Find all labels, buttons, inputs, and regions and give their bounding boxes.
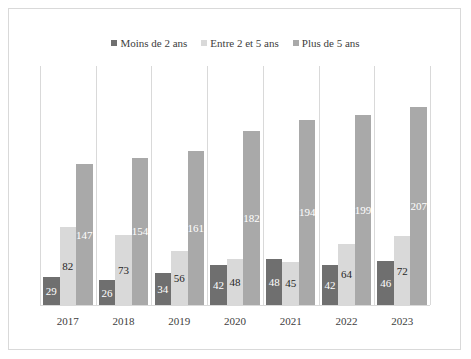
gridline xyxy=(96,66,97,305)
bar: 82 xyxy=(60,227,77,305)
x-tick-label: 2023 xyxy=(374,315,430,327)
data-label: 42 xyxy=(213,279,224,291)
legend-label: Entre 2 et 5 ans xyxy=(210,37,278,49)
bar: 182 xyxy=(243,131,260,305)
data-label: 45 xyxy=(285,277,296,289)
x-axis-line xyxy=(40,305,430,306)
bar: 29 xyxy=(43,277,60,305)
bar: 56 xyxy=(171,251,188,305)
bar: 42 xyxy=(210,265,227,305)
gridline xyxy=(374,66,375,305)
gridline xyxy=(40,66,41,305)
gridline xyxy=(430,66,431,305)
x-tick-label: 2017 xyxy=(40,315,96,327)
legend-item: Moins de 2 ans xyxy=(111,37,187,49)
legend-swatch-icon xyxy=(111,40,117,46)
legend-item: Entre 2 et 5 ans xyxy=(201,37,278,49)
data-label: 29 xyxy=(46,285,57,297)
legend-label: Plus de 5 ans xyxy=(302,37,360,49)
data-label: 154 xyxy=(132,225,149,237)
gridline xyxy=(151,66,152,305)
x-tick-label: 2019 xyxy=(151,315,207,327)
gridline xyxy=(319,66,320,305)
bar: 46 xyxy=(377,261,394,305)
data-label: 194 xyxy=(299,206,316,218)
data-label: 56 xyxy=(174,272,185,284)
data-label: 72 xyxy=(397,265,408,277)
data-label: 182 xyxy=(243,212,260,224)
x-tick-label: 2021 xyxy=(263,315,319,327)
legend-label: Moins de 2 ans xyxy=(120,37,187,49)
data-label: 26 xyxy=(102,287,113,299)
bar: 73 xyxy=(115,235,132,305)
chart-legend: Moins de 2 ansEntre 2 et 5 ansPlus de 5 … xyxy=(0,37,471,49)
data-label: 42 xyxy=(324,279,335,291)
gridline xyxy=(207,66,208,305)
bar: 26 xyxy=(99,280,116,305)
bar: 34 xyxy=(155,273,172,306)
bar: 194 xyxy=(299,120,316,305)
data-label: 73 xyxy=(118,264,129,276)
legend-swatch-icon xyxy=(201,40,207,46)
gridline xyxy=(263,66,264,305)
data-label: 207 xyxy=(410,200,427,212)
data-label: 161 xyxy=(188,222,205,234)
x-tick-label: 2018 xyxy=(96,315,152,327)
plot-area: 2982147267315434561614248182484519442641… xyxy=(40,66,430,305)
bar: 48 xyxy=(227,259,244,305)
bar: 72 xyxy=(394,236,411,305)
bar: 64 xyxy=(338,244,355,305)
bar: 147 xyxy=(76,164,93,305)
data-label: 64 xyxy=(341,268,352,280)
bar: 42 xyxy=(322,265,339,305)
data-label: 147 xyxy=(76,229,93,241)
data-label: 48 xyxy=(269,276,280,288)
bar: 207 xyxy=(410,107,427,305)
legend-swatch-icon xyxy=(293,40,299,46)
bar: 161 xyxy=(188,151,205,305)
x-tick-label: 2022 xyxy=(319,315,375,327)
bar: 45 xyxy=(282,262,299,305)
data-label: 34 xyxy=(157,283,168,295)
x-tick-label: 2020 xyxy=(207,315,263,327)
bar: 199 xyxy=(355,115,372,305)
data-label: 82 xyxy=(62,260,73,272)
data-label: 48 xyxy=(230,276,241,288)
bar: 48 xyxy=(266,259,283,305)
data-label: 46 xyxy=(380,277,391,289)
bar: 154 xyxy=(132,158,149,305)
legend-item: Plus de 5 ans xyxy=(293,37,360,49)
data-label: 199 xyxy=(355,204,372,216)
